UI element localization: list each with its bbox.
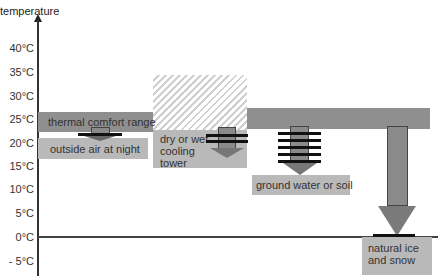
y-axis-label: temperature bbox=[0, 5, 59, 17]
tick-25: 25°C bbox=[2, 113, 34, 125]
ice-arrow-head-icon bbox=[378, 206, 416, 236]
ice-line-2: and snow bbox=[368, 254, 419, 266]
cooling-tower-line-2: cooling bbox=[160, 145, 208, 157]
ground-bar-2 bbox=[278, 139, 321, 142]
ground-label: ground water or soil bbox=[256, 179, 353, 191]
ground-arrow-head-icon bbox=[283, 163, 317, 175]
ground-bar-4 bbox=[278, 153, 321, 156]
ice-arrow-shaft bbox=[387, 126, 408, 206]
night-air-label: outside air at night bbox=[50, 143, 140, 155]
cooling-tower-arrow-head-icon bbox=[210, 148, 244, 158]
tick-20: 20°C bbox=[2, 137, 34, 149]
ground-bar-1 bbox=[278, 132, 321, 135]
cooling-tower-label: dry or wet cooling tower bbox=[160, 133, 208, 169]
cooling-tower-line-1: dry or wet bbox=[160, 133, 208, 145]
ice-bar bbox=[373, 234, 415, 237]
cooling-tower-arrow-shaft bbox=[218, 127, 236, 149]
tick-5: 5°C bbox=[2, 207, 34, 219]
night-air-arrow-head-icon bbox=[84, 136, 116, 141]
ground-bar-3 bbox=[278, 146, 321, 149]
cooling-tower-bar-1 bbox=[206, 134, 248, 137]
tick-15: 15°C bbox=[2, 160, 34, 172]
cooling-tower-bar-2 bbox=[206, 140, 248, 143]
cooling-tower-hatch bbox=[153, 75, 247, 130]
ice-label: natural ice and snow bbox=[368, 242, 419, 266]
tick-35: 35°C bbox=[2, 66, 34, 78]
tick-40: 40°C bbox=[2, 42, 34, 54]
ice-line-1: natural ice bbox=[368, 242, 419, 254]
tick-30: 30°C bbox=[2, 90, 34, 102]
tick-minus-5: - 5°C bbox=[2, 255, 34, 267]
tick-10: 10°C bbox=[2, 183, 34, 195]
tick-0: 0°C bbox=[2, 231, 34, 243]
cooling-tower-line-3: tower bbox=[160, 157, 208, 169]
